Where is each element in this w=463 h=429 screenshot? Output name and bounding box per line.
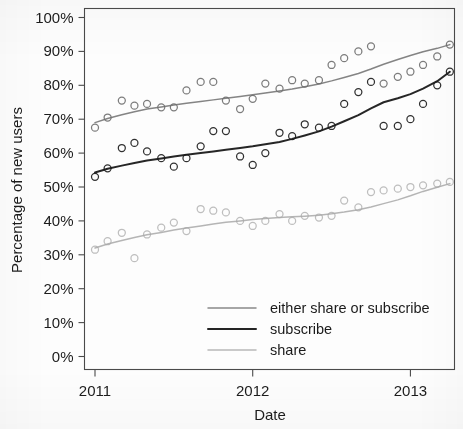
y-tick-label: 100% [35, 9, 73, 26]
x-tick-label: 2013 [394, 382, 427, 399]
y-tick-label: 90% [43, 42, 73, 59]
y-axis-title: Percentage of new users [8, 107, 25, 273]
legend-label-1: subscribe [270, 321, 332, 337]
chart-figure: 0%10%20%30%40%50%60%70%80%90%100% 201120… [0, 0, 463, 429]
y-tick-label: 60% [43, 144, 73, 161]
y-tick-label: 70% [43, 110, 73, 127]
legend-label-0: either share or subscribe [270, 300, 430, 316]
x-tick-label: 2011 [79, 382, 111, 399]
y-tick-label: 0% [52, 348, 74, 365]
y-tick-label: 40% [43, 212, 73, 229]
y-tick-label: 80% [43, 76, 73, 93]
x-axis-title: Date [254, 406, 286, 423]
scatter-trend-chart: 0%10%20%30%40%50%60%70%80%90%100% 201120… [0, 0, 463, 429]
y-tick-label: 30% [43, 246, 73, 263]
y-tick-label: 50% [43, 178, 73, 195]
y-tick-label: 20% [43, 280, 73, 297]
y-tick-label: 10% [43, 314, 73, 331]
x-tick-label: 2012 [236, 382, 269, 399]
legend-label-2: share [270, 342, 306, 358]
